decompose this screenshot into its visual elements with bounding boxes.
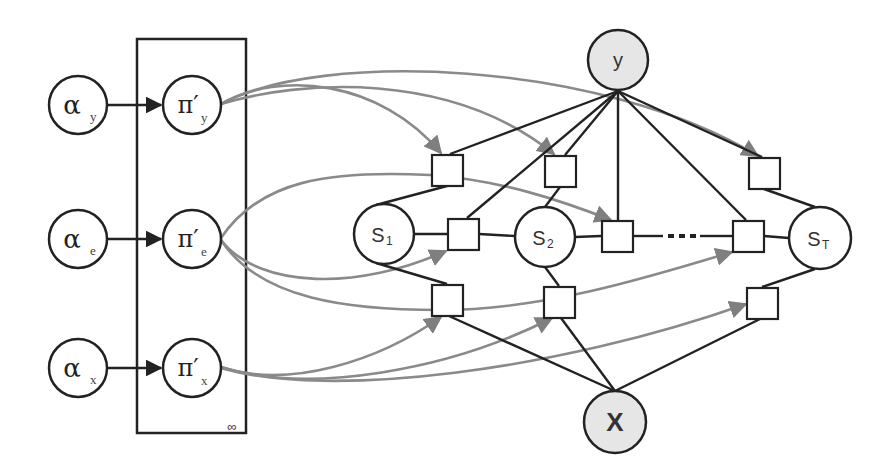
svg-text:S: S xyxy=(532,227,545,249)
graphical-model-diagram: ∞ xyxy=(0,0,894,474)
factor-bot-2 xyxy=(544,287,575,318)
x-edges xyxy=(449,316,760,391)
edge-pi-y-to-f-top-2 xyxy=(221,87,554,154)
svg-text:e: e xyxy=(90,243,96,258)
svg-text:e: e xyxy=(201,244,207,259)
svg-text:α: α xyxy=(63,353,81,383)
factor-mid-1 xyxy=(448,219,479,250)
node-state-sT: S T xyxy=(789,207,851,269)
factor-top-1 xyxy=(432,155,463,186)
svg-text:X: X xyxy=(606,407,624,437)
svg-text:S: S xyxy=(371,224,384,246)
svg-text:y: y xyxy=(201,110,208,125)
node-state-s2: S 2 xyxy=(515,207,575,267)
svg-text:α: α xyxy=(63,90,81,120)
svg-text:x: x xyxy=(90,372,97,387)
svg-text:π′: π′ xyxy=(177,225,198,253)
svg-text:2: 2 xyxy=(547,237,554,251)
node-alpha-x: α x xyxy=(49,339,107,397)
factor-bot-T xyxy=(747,288,778,319)
svg-text:π′: π′ xyxy=(177,91,198,119)
node-alpha-e: α e xyxy=(49,210,107,268)
svg-text:S: S xyxy=(807,228,820,250)
factor-top-T xyxy=(749,158,780,189)
node-y-observed: y xyxy=(588,30,648,90)
node-state-s1: S 1 xyxy=(354,204,414,264)
svg-text:T: T xyxy=(822,238,830,252)
edge-pi-x-to-f-bot-1 xyxy=(221,317,441,375)
factor-mid-2 xyxy=(602,221,633,252)
factor-bot-1 xyxy=(432,285,463,316)
svg-text:1: 1 xyxy=(386,234,393,248)
node-alpha-y: α y xyxy=(49,76,107,134)
node-pi-x: π′ x xyxy=(163,339,221,397)
svg-text:x: x xyxy=(201,373,208,388)
svg-text:π′: π′ xyxy=(177,354,198,382)
edge-pi-x-to-f-bot-T xyxy=(221,304,746,381)
chain-ellipsis xyxy=(668,234,696,238)
svg-text:α: α xyxy=(63,224,81,254)
hyper-edges xyxy=(107,105,161,368)
node-pi-y: π′ y xyxy=(163,76,221,134)
plate-infinity-label: ∞ xyxy=(227,419,236,434)
svg-text:y: y xyxy=(613,49,623,71)
svg-text:y: y xyxy=(90,109,97,124)
factor-mid-T xyxy=(733,221,764,252)
node-x-observed: X xyxy=(584,391,646,453)
factor-top-2 xyxy=(545,156,576,187)
node-pi-e: π′ e xyxy=(163,210,221,268)
y-edges xyxy=(450,91,762,220)
